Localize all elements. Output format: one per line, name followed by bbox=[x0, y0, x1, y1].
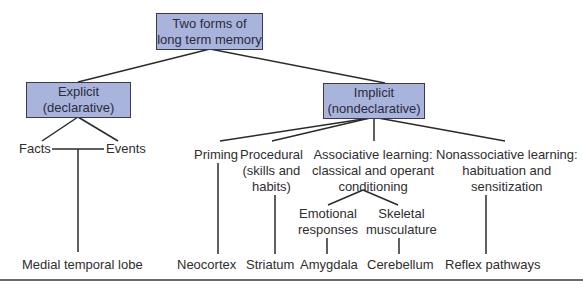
procedural-label: Procedural (skills and habits) bbox=[240, 147, 303, 195]
connector-lines bbox=[0, 0, 583, 289]
medial-temporal-lobe-label: Medial temporal lobe bbox=[22, 257, 143, 273]
procedural-line2: (skills and bbox=[240, 163, 303, 179]
associative-line1: Associative learning: bbox=[312, 147, 434, 163]
associative-line2: classical and operant bbox=[312, 163, 434, 179]
neocortex-label: Neocortex bbox=[177, 257, 236, 273]
reflex-pathways-label: Reflex pathways bbox=[445, 257, 540, 273]
nonassociative-line1: Nonassociative learning: bbox=[436, 147, 578, 163]
implicit-memory-node: Implicit (nondeclarative) bbox=[323, 83, 425, 119]
amygdala-label: Amygdala bbox=[300, 257, 358, 273]
priming-label: Priming bbox=[194, 147, 238, 163]
procedural-line3: habits) bbox=[240, 179, 303, 195]
emotional-line2: responses bbox=[298, 222, 358, 238]
procedural-line1: Procedural bbox=[240, 147, 303, 163]
skeletal-line1: Skeletal bbox=[366, 206, 437, 222]
implicit-node-line1: Implicit bbox=[354, 85, 394, 101]
nonassociative-learning-label: Nonassociative learning: habituation and… bbox=[436, 147, 578, 195]
implicit-node-line2: (nondeclarative) bbox=[327, 101, 420, 117]
explicit-memory-node: Explicit (declarative) bbox=[26, 82, 131, 118]
explicit-node-line1: Explicit bbox=[58, 84, 99, 100]
events-label: Events bbox=[106, 141, 146, 157]
facts-label: Facts bbox=[19, 141, 51, 157]
nonassociative-line2: habituation and bbox=[436, 163, 578, 179]
bottom-divider bbox=[0, 279, 583, 281]
nonassociative-line3: sensitization bbox=[436, 179, 578, 195]
associative-line3: conditioning bbox=[312, 179, 434, 195]
root-node-line2: long term memory bbox=[157, 32, 262, 48]
skeletal-musculature-label: Skeletal musculature bbox=[366, 206, 437, 238]
striatum-label: Striatum bbox=[246, 257, 294, 273]
root-node-long-term-memory: Two forms of long term memory bbox=[156, 13, 263, 50]
emotional-responses-label: Emotional responses bbox=[298, 206, 358, 238]
root-node-line1: Two forms of bbox=[172, 16, 246, 32]
emotional-line1: Emotional bbox=[298, 206, 358, 222]
cerebellum-label: Cerebellum bbox=[367, 257, 433, 273]
explicit-node-line2: (declarative) bbox=[43, 100, 115, 116]
skeletal-line2: musculature bbox=[366, 222, 437, 238]
associative-learning-label: Associative learning: classical and oper… bbox=[312, 147, 434, 195]
